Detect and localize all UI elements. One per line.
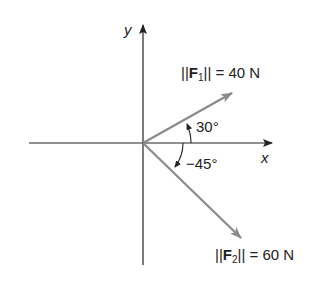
f2-magnitude-label: ||F2|| = 60 N <box>215 247 294 265</box>
angle-label-30: 30° <box>196 119 219 134</box>
y-axis-label: y <box>124 22 132 37</box>
f1-magnitude-label: ||F1|| = 40 N <box>181 65 260 83</box>
f2-subscript: 2 <box>232 254 238 265</box>
f2-symbol: F <box>223 246 232 263</box>
angle-arc-neg45 <box>175 143 183 167</box>
f2-value: = 60 N <box>250 246 295 263</box>
f1-value: = 40 N <box>216 64 261 81</box>
f1-subscript: 1 <box>198 72 204 83</box>
force-diagram <box>0 0 327 283</box>
angle-label-neg45: −45° <box>186 156 217 171</box>
f1-symbol: F <box>189 64 198 81</box>
x-axis-label: x <box>261 150 269 165</box>
angle-arc-30 <box>187 124 191 143</box>
